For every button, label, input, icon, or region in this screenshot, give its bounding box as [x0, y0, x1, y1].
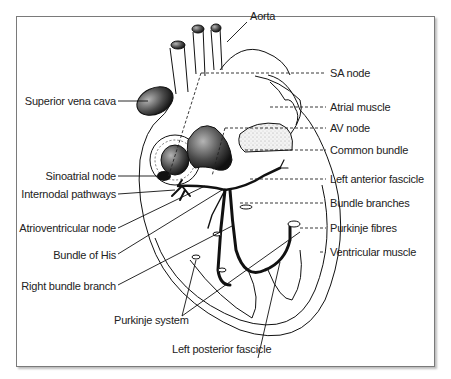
label-left-posterior-fascicle: Left posterior fascicle	[172, 343, 271, 355]
leader-lines	[118, 22, 300, 358]
label-right-bundle-branch: Right bundle branch	[10, 280, 116, 292]
label-bundle-of-his: Bundle of His	[10, 249, 116, 261]
label-aorta: Aorta	[250, 10, 275, 22]
label-common-bundle: Common bundle	[330, 144, 408, 156]
label-sinoatrial-node: Sinoatrial node	[10, 170, 116, 182]
label-ventricular-muscle: Ventricular muscle	[330, 246, 416, 258]
label-internodal-pathways: Internodal pathways	[10, 188, 116, 200]
label-superior-vena-cava: Superior vena cava	[10, 95, 116, 107]
label-bundle-branches: Bundle branches	[330, 197, 410, 209]
label-purkinje-fibres: Purkinje fibres	[330, 222, 397, 234]
label-sa-node: SA node	[330, 67, 370, 79]
common-bundle-shape	[239, 123, 293, 152]
heart-outline	[139, 75, 341, 336]
label-av-node: AV node	[330, 122, 370, 134]
label-atrial-muscle: Atrial muscle	[330, 101, 390, 113]
label-purkinje-system: Purkinje system	[114, 314, 189, 326]
label-left-anterior-fascicle: Left anterior fascicle	[330, 173, 424, 185]
valve-shape	[187, 126, 232, 171]
label-atrioventricular-node: Atrioventricular node	[10, 222, 116, 234]
